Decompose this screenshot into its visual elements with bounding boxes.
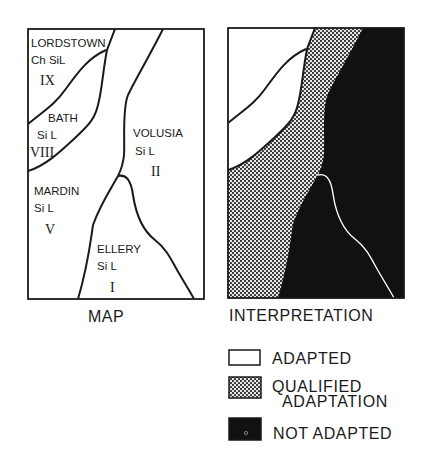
- label-ellery-class: I: [110, 280, 115, 295]
- soil-map: LORDSTOWN Ch SiL IX BATH Si L VIII VOLUS…: [28, 29, 204, 299]
- label-volusia-texture: Si L: [135, 145, 155, 157]
- legend-swatch-adapted: [229, 350, 260, 365]
- label-lordstown-class: IX: [40, 73, 55, 88]
- label-mardin-class: V: [45, 222, 55, 237]
- label-ellery: ELLERY: [97, 243, 141, 255]
- label-mardin: MARDIN: [34, 185, 79, 197]
- label-volusia-class: II: [151, 164, 161, 179]
- label-mardin-texture: Si L: [34, 202, 54, 214]
- label-lordstown-texture: Ch SiL: [31, 54, 66, 66]
- label-bath: BATH: [48, 112, 78, 124]
- interpretation-map: [228, 28, 404, 298]
- label-bath-texture: Si L: [37, 129, 57, 141]
- legend-swatch-not-adapted: [229, 418, 261, 440]
- label-volusia: VOLUSIA: [133, 127, 183, 139]
- interpretation-caption: INTERPRETATION: [229, 307, 373, 325]
- label-ellery-texture: Si L: [97, 260, 117, 272]
- legend-label-adapted: ADAPTED: [272, 351, 352, 366]
- map-frame: [28, 29, 204, 299]
- legend-label-qualified-line1: QUALIFIED: [272, 379, 362, 394]
- legend-label-qualified-line2: ADAPTATION: [282, 394, 388, 409]
- legend: [229, 350, 261, 440]
- map-caption: MAP: [88, 308, 124, 326]
- label-lordstown: LORDSTOWN: [31, 37, 106, 49]
- legend-label-not-adapted: NOT ADAPTED: [273, 426, 392, 441]
- legend-swatch-qualified: [229, 377, 261, 398]
- label-bath-class: VIII: [30, 145, 54, 160]
